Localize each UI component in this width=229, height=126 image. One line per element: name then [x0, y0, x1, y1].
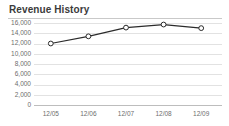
data-point-marker[interactable] [161, 22, 166, 27]
data-point-marker[interactable] [199, 26, 204, 31]
data-point-marker[interactable] [124, 25, 129, 30]
data-point-marker[interactable] [48, 41, 53, 46]
revenue-history-widget: Revenue History 16,00014,00012,00010,000… [0, 0, 229, 126]
data-point-marker[interactable] [86, 34, 91, 39]
page-title: Revenue History [9, 4, 89, 15]
chart-plot-area [0, 19, 229, 126]
revenue-line-chart: 16,00014,00012,00010,0008,0006,0004,0002… [0, 19, 229, 126]
